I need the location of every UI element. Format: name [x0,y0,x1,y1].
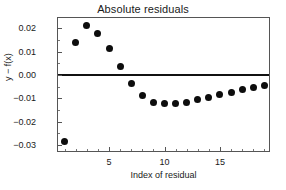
x-tick-minor [253,149,254,151]
data-point [205,94,212,101]
y-tick-minor [58,133,60,134]
data-point [161,100,168,107]
x-tick-minor [87,149,88,151]
x-tick-label: 15 [215,157,225,167]
data-point [128,80,135,87]
y-tick-label: −0.03 [0,140,36,150]
x-tick-mark [165,147,166,151]
data-point [172,100,179,107]
y-tick-mark [58,145,62,146]
y-tick-label: 0.01 [0,47,36,57]
y-tick-label: −0.02 [0,117,36,127]
y-tick-label: 0.00 [0,70,36,80]
data-point [239,86,246,93]
residual-plot-figure: Absolute residuals y − f(x) 0.020.010.00… [0,0,286,190]
data-point [194,96,201,103]
x-tick-minor [98,149,99,151]
x-tick-minor [264,149,265,151]
y-tick-label: −0.01 [0,93,36,103]
chart-title: Absolute residuals [0,3,286,15]
x-tick-label: 5 [107,157,112,167]
data-point [150,99,157,106]
zero-reference-line [58,74,269,76]
data-point [183,99,190,106]
x-tick-minor [76,149,77,151]
x-tick-minor [142,149,143,151]
x-tick-minor [176,149,177,151]
y-tick-minor [58,87,60,88]
data-point [106,45,113,52]
data-point [228,89,235,96]
y-tick-minor [58,110,60,111]
data-point [216,91,223,98]
x-tick-minor [153,149,154,151]
x-tick-minor [231,149,232,151]
x-tick-mark [220,147,221,151]
x-tick-label: 10 [159,157,169,167]
data-point [61,138,68,145]
data-point [72,39,79,46]
y-tick-mark [58,122,62,123]
x-tick-mark [109,147,110,151]
x-tick-minor [198,149,199,151]
data-point [94,30,101,37]
y-tick-minor [58,63,60,64]
y-tick-label: 0.02 [0,23,36,33]
data-point [261,82,268,89]
x-tick-minor [242,149,243,151]
x-axis-label: Index of residual [57,170,270,180]
data-point [139,92,146,99]
x-tick-minor [209,149,210,151]
y-tick-mark [58,98,62,99]
x-tick-minor [131,149,132,151]
x-tick-minor [120,149,121,151]
data-point [117,63,124,70]
y-tick-minor [58,40,60,41]
data-point [250,84,257,91]
y-tick-mark [58,75,62,76]
data-point [83,22,90,29]
x-tick-minor [187,149,188,151]
x-tick-minor [65,149,66,151]
y-tick-mark [58,52,62,53]
plot-area: 0.020.010.00−0.01−0.02−0.03 51015 [57,17,270,152]
y-tick-mark [58,28,62,29]
